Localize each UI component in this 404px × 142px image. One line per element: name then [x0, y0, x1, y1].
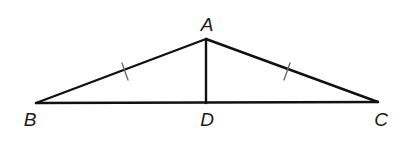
congruence-tick-ac: [284, 63, 290, 80]
label-b: B: [24, 109, 37, 130]
segment-ac: [206, 39, 378, 102]
label-c: C: [374, 109, 388, 130]
triangle-diagram: A B D C: [0, 0, 404, 142]
label-a: A: [200, 14, 214, 35]
label-d: D: [200, 109, 214, 130]
segment-ab: [36, 39, 206, 103]
